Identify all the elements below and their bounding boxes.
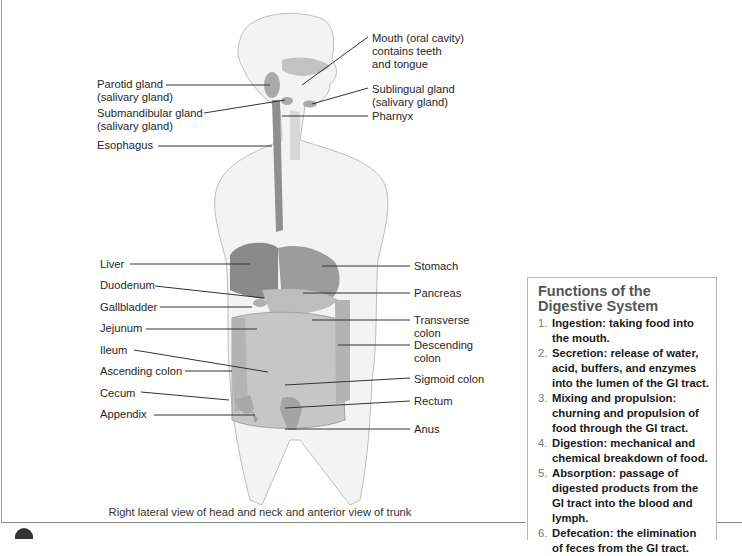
item-text: Digestion: mechanical and chemical break… <box>552 437 708 464</box>
figure-caption: Right lateral view of head and neck and … <box>0 506 520 518</box>
function-item: 6.Defecation: the elimination of feces f… <box>528 526 710 556</box>
item-text: Absorption: passage of digested products… <box>552 467 698 524</box>
function-item: 3.Mixing and propulsion: churning and pr… <box>528 391 710 436</box>
label-anus: Anus <box>414 423 440 436</box>
label-transverse-colon: Transverse colon <box>414 314 470 340</box>
label-rectum: Rectum <box>414 395 453 408</box>
label-mouth: Mouth (oral cavity) contains teeth and t… <box>372 32 464 71</box>
function-item: 1.Ingestion: taking food into the mouth. <box>528 316 710 346</box>
item-number: 2. <box>538 346 547 361</box>
label-submandibular-gland: Submandibular gland (salivary gland) <box>97 107 203 133</box>
label-appendix: Appendix <box>100 408 147 421</box>
item-number: 1. <box>538 316 547 331</box>
item-text: Defecation: the elimination of feces fro… <box>552 527 696 554</box>
functions-box-title: Functions of the Digestive System <box>538 284 716 314</box>
abdominal-organs <box>230 243 350 430</box>
label-jejunum: Jejunum <box>100 322 142 335</box>
label-sigmoid-colon: Sigmoid colon <box>414 373 484 386</box>
gallbladder-shape <box>253 299 267 307</box>
item-number: 3. <box>538 391 547 406</box>
item-number: 6. <box>538 526 547 541</box>
function-item: 4.Digestion: mechanical and chemical bre… <box>528 436 710 466</box>
label-ileum: Ileum <box>100 344 127 357</box>
label-descending-colon: Descending colon <box>414 339 473 365</box>
functions-list: 1.Ingestion: taking food into the mouth.… <box>528 316 716 556</box>
leader-line <box>141 392 229 400</box>
label-esophagus: Esophagus <box>97 139 153 152</box>
item-text: Secretion: release of water, acid, buffe… <box>552 347 709 389</box>
function-item: 2.Secretion: release of water, acid, buf… <box>528 346 710 391</box>
label-stomach: Stomach <box>414 260 458 273</box>
descending-colon-shape <box>335 300 350 404</box>
function-item: 5.Absorption: passage of digested produc… <box>528 466 710 526</box>
item-number: 5. <box>538 466 547 481</box>
label-sublingual-gland: Sublingual gland (salivary gland) <box>372 83 455 109</box>
label-cecum: Cecum <box>100 387 135 400</box>
label-parotid-gland: Parotid gland (salivary gland) <box>97 78 173 104</box>
item-text: Mixing and propulsion: churning and prop… <box>552 392 699 434</box>
label-pharynx: Pharnyx <box>372 110 413 123</box>
label-gallbladder: Gallbladder <box>100 301 157 314</box>
label-duodenum: Duodenum <box>100 279 155 292</box>
item-number: 4. <box>538 436 547 451</box>
sublingual-gland-shape <box>303 101 317 108</box>
trachea-shape <box>290 110 300 160</box>
label-ascending-colon: Ascending colon <box>100 365 182 378</box>
label-liver: Liver <box>100 258 124 271</box>
page-corner-icon <box>15 528 33 539</box>
item-text: Ingestion: taking food into the mouth. <box>552 317 694 344</box>
label-pancreas: Pancreas <box>414 287 461 300</box>
functions-box: Functions of the Digestive System 1.Inge… <box>527 277 717 540</box>
submandibular-gland-shape <box>281 97 293 105</box>
